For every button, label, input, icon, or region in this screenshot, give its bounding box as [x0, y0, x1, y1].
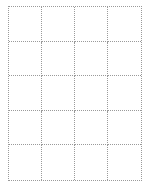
grid-cell — [75, 145, 108, 180]
grid-cell — [42, 7, 75, 42]
grid-cell — [42, 145, 75, 180]
grid-cell — [75, 76, 108, 111]
grid-cell — [9, 111, 42, 146]
grid-cell — [9, 145, 42, 180]
grid-cell — [9, 76, 42, 111]
grid-cell — [108, 7, 141, 42]
grid-cell — [108, 145, 141, 180]
grid-cell — [9, 42, 42, 77]
grid-cell — [75, 42, 108, 77]
grid-cell — [42, 42, 75, 77]
grid-cell — [42, 76, 75, 111]
grid-cell — [75, 7, 108, 42]
grid-cell — [108, 42, 141, 77]
grid-cell — [42, 111, 75, 146]
dotted-grid — [8, 6, 142, 181]
grid-cell — [108, 76, 141, 111]
grid-cell — [9, 7, 42, 42]
grid-cell — [75, 111, 108, 146]
grid-cell — [108, 111, 141, 146]
